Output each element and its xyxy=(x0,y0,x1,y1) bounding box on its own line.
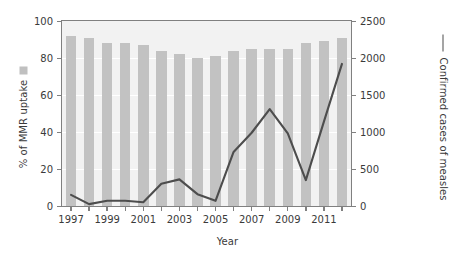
x-axis-tick-label: 2003 xyxy=(167,214,192,225)
y-axis-right-tick xyxy=(351,169,356,170)
x-axis-tick xyxy=(233,206,234,211)
x-axis-tick-label: 2009 xyxy=(275,214,300,225)
x-axis-tick xyxy=(143,206,144,211)
x-axis-tick-label: 2011 xyxy=(311,214,336,225)
y-axis-left-tick xyxy=(57,58,62,59)
y-axis-right-tick xyxy=(351,95,356,96)
x-axis-title: Year xyxy=(0,236,455,247)
y-axis-right-tick-label: 1000 xyxy=(360,127,385,138)
line-series xyxy=(62,21,351,206)
x-axis-tick xyxy=(269,206,270,211)
x-axis-tick xyxy=(305,206,306,211)
x-axis-tick xyxy=(179,206,180,211)
x-axis-tick-label: 1999 xyxy=(94,214,119,225)
measles-mmr-chart: % of MMR uptake Confirmed cases of measl… xyxy=(0,0,455,255)
x-axis-tick-label: 2005 xyxy=(203,214,228,225)
x-axis-tick xyxy=(161,206,162,211)
x-axis-tick xyxy=(287,206,288,211)
x-axis-tick xyxy=(70,206,71,211)
x-axis-tick xyxy=(251,206,252,211)
measles-cases-line xyxy=(71,64,342,204)
y-axis-right-tick-label: 0 xyxy=(360,201,366,212)
y-axis-left-tick-label: 80 xyxy=(40,53,53,64)
x-axis-tick-label: 2001 xyxy=(131,214,156,225)
y-axis-right-title: Confirmed cases of measles xyxy=(438,38,449,198)
legend-bar-swatch-icon xyxy=(19,67,27,75)
y-axis-right-tick-label: 500 xyxy=(360,164,379,175)
y-axis-left-title-text: % of MMR uptake xyxy=(18,80,29,169)
x-axis-tick-label: 1997 xyxy=(58,214,83,225)
y-axis-left-tick-label: 0 xyxy=(47,201,53,212)
y-axis-left-tick xyxy=(57,21,62,22)
plot-area: 020406080100 05001000150020002500 199719… xyxy=(61,20,352,207)
y-axis-left-tick xyxy=(57,132,62,133)
y-axis-right-tick xyxy=(351,206,356,207)
x-axis-tick xyxy=(197,206,198,211)
y-axis-left-tick xyxy=(57,206,62,207)
y-axis-right-tick-label: 2000 xyxy=(360,53,385,64)
y-axis-left-tick xyxy=(57,169,62,170)
x-axis-tick xyxy=(215,206,216,211)
y-axis-left-tick xyxy=(57,95,62,96)
y-axis-left-tick-label: 60 xyxy=(40,90,53,101)
x-axis-tick-label: 2007 xyxy=(239,214,264,225)
y-axis-right-tick xyxy=(351,58,356,59)
y-axis-left-tick-label: 100 xyxy=(34,16,53,27)
y-axis-left-tick-label: 40 xyxy=(40,127,53,138)
plot-inner xyxy=(62,21,351,206)
y-axis-right-tick-label: 1500 xyxy=(360,90,385,101)
y-axis-right-tick-label: 2500 xyxy=(360,16,385,27)
x-axis-tick xyxy=(323,206,324,211)
x-axis-tick xyxy=(88,206,89,211)
x-axis-tick xyxy=(125,206,126,211)
y-axis-right-tick xyxy=(351,21,356,22)
y-axis-left-tick-label: 20 xyxy=(40,164,53,175)
x-axis-tick xyxy=(106,206,107,211)
y-axis-right-title-text: Confirmed cases of measles xyxy=(438,57,449,200)
x-axis-tick xyxy=(341,206,342,211)
y-axis-left-title: % of MMR uptake xyxy=(18,48,29,188)
y-axis-right-tick xyxy=(351,132,356,133)
legend-line-swatch-icon xyxy=(443,34,444,51)
